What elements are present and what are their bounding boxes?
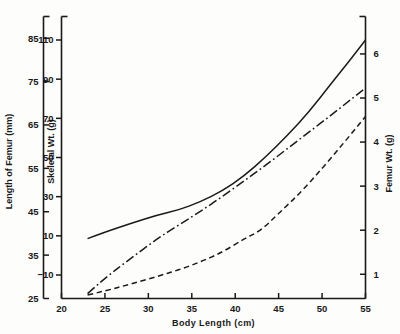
chart-figure: 2025303540455055Body Length (cm)−1010305… bbox=[0, 0, 400, 334]
axis-tick-label: 3 bbox=[374, 181, 379, 192]
x-tick-label: 25 bbox=[100, 303, 111, 314]
axis-tick-label: 2 bbox=[374, 225, 379, 236]
axis-tick-label: 35 bbox=[28, 250, 39, 261]
x-tick-label: 20 bbox=[56, 303, 67, 314]
axis-tick-label: 1 bbox=[374, 269, 380, 280]
x-tick-label: 50 bbox=[317, 303, 328, 314]
axis-tick-label: 45 bbox=[28, 206, 39, 217]
x-tick-label: 45 bbox=[273, 303, 284, 314]
series-line-femur-wt bbox=[88, 117, 366, 295]
skeletal-weight-axis-title: Skeletal Wt. (g) bbox=[46, 119, 56, 184]
femur-weight-axis: 123456 bbox=[360, 17, 380, 299]
axis-tick-label: 110 bbox=[38, 34, 53, 45]
axis-tick-label: 75 bbox=[28, 76, 39, 87]
axis-tick-label: 6 bbox=[374, 48, 379, 59]
axis-tick-label: 10 bbox=[43, 230, 54, 241]
axis-tick-label: −10 bbox=[37, 269, 53, 280]
femur-weight-axis-title: Femur Wt. (g) bbox=[384, 135, 394, 193]
x-tick-label: 55 bbox=[360, 303, 371, 314]
series-line-skeletal-wt bbox=[88, 88, 366, 294]
axis-tick-label: 90 bbox=[43, 74, 54, 85]
axis-tick-label: 4 bbox=[374, 136, 380, 147]
x-axis-ticks: 2025303540455055 bbox=[56, 293, 371, 314]
series-line-length-of-femur bbox=[88, 40, 366, 239]
axis-tick-label: 85 bbox=[28, 33, 39, 44]
multi-axis-line-chart: 2025303540455055Body Length (cm)−1010305… bbox=[0, 0, 400, 334]
x-tick-label: 35 bbox=[186, 303, 197, 314]
axis-tick-label: 65 bbox=[28, 119, 39, 130]
axis-tick-label: 30 bbox=[43, 191, 54, 202]
axis-tick-label: 25 bbox=[28, 293, 39, 304]
axis-tick-label: 5 bbox=[374, 92, 380, 103]
axis-tick-label: 55 bbox=[28, 163, 39, 174]
x-axis-title: Body Length (cm) bbox=[172, 318, 255, 328]
femur-length-axis-title: Length of Femur (mm) bbox=[4, 114, 14, 210]
x-tick-label: 40 bbox=[230, 303, 241, 314]
x-tick-label: 30 bbox=[143, 303, 154, 314]
